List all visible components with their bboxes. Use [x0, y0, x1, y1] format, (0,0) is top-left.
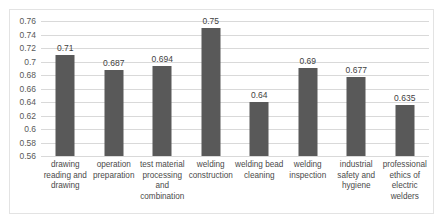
bar-value-label: 0.64 — [251, 91, 268, 100]
y-axis-tick-label: 0.68 — [19, 71, 36, 80]
bar-chart-figure: 0.760.740.720.70.680.660.640.620.60.580.… — [9, 9, 434, 214]
bar-group[interactable]: 0.687 — [90, 21, 139, 156]
bar-value-label: 0.635 — [394, 94, 415, 103]
bar-value-label: 0.677 — [346, 66, 367, 75]
bar-value-label: 0.687 — [103, 59, 124, 68]
category-axis-label: industrial safety and hygiene — [332, 160, 381, 192]
y-axis-tick-label: 0.58 — [19, 138, 36, 147]
bar-group[interactable]: 0.75 — [187, 21, 236, 156]
bar[interactable] — [153, 66, 172, 156]
category-axis: drawing reading and drawingoperation pre… — [41, 160, 429, 213]
y-axis-tick-label: 0.62 — [19, 111, 36, 120]
bar-value-label: 0.75 — [202, 17, 219, 26]
y-axis-tick-label: 0.72 — [19, 44, 36, 53]
bar-value-label: 0.71 — [57, 44, 74, 53]
y-axis-tick-label: 0.6 — [24, 125, 36, 134]
y-axis-tick-label: 0.7 — [24, 57, 36, 66]
bar-group[interactable]: 0.635 — [381, 21, 430, 156]
bar[interactable] — [298, 68, 317, 156]
y-axis-tick-label: 0.74 — [19, 30, 36, 39]
bar[interactable] — [395, 105, 414, 156]
category-axis-label: professional ethics of electric welders — [381, 160, 430, 202]
category-axis-label: drawing reading and drawing — [41, 160, 90, 192]
category-axis-label: welding construction — [187, 160, 236, 181]
category-axis-label: operation preparation — [90, 160, 139, 181]
bar-group[interactable]: 0.71 — [41, 21, 90, 156]
category-axis-label: welding bead cleaning — [235, 160, 284, 181]
bar[interactable] — [347, 77, 366, 156]
y-axis-tick-label: 0.76 — [19, 17, 36, 26]
plot-area: 0.760.740.720.70.680.660.640.620.60.580.… — [41, 21, 429, 156]
category-axis-label: welding inspection — [284, 160, 333, 181]
bar[interactable] — [201, 28, 220, 156]
bar-group[interactable]: 0.69 — [284, 21, 333, 156]
bar-value-label: 0.694 — [152, 55, 173, 64]
y-axis-tick-label: 0.56 — [19, 152, 36, 161]
bar[interactable] — [250, 102, 269, 156]
bar[interactable] — [56, 55, 75, 156]
bar[interactable] — [104, 70, 123, 156]
y-axis-tick-label: 0.64 — [19, 98, 36, 107]
bar-group[interactable]: 0.677 — [332, 21, 381, 156]
bar-value-label: 0.69 — [299, 57, 316, 66]
gridline — [41, 156, 429, 157]
category-axis-label: test material processing and combination — [138, 160, 187, 202]
bar-group[interactable]: 0.64 — [235, 21, 284, 156]
bar-group[interactable]: 0.694 — [138, 21, 187, 156]
y-axis-tick-label: 0.66 — [19, 84, 36, 93]
